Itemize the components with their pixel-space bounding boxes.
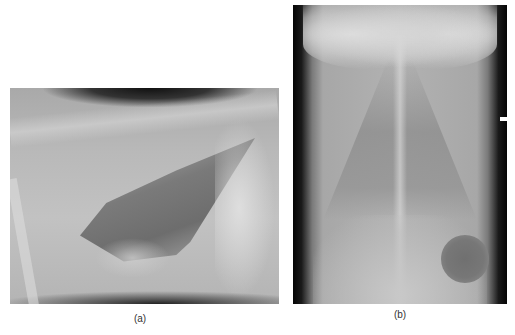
cardiac-silhouette: [95, 238, 170, 278]
side-marker: [500, 117, 507, 121]
radiograph-lateral: [10, 88, 279, 304]
radiograph-ventrodorsal: [293, 5, 507, 304]
diaphragm-shadow: [215, 118, 275, 298]
panel-label-a: (a): [120, 313, 160, 324]
panel-label-b: (b): [380, 309, 420, 320]
gastric-gas-bubble: [441, 235, 489, 283]
forelimb-shadow: [10, 178, 39, 304]
